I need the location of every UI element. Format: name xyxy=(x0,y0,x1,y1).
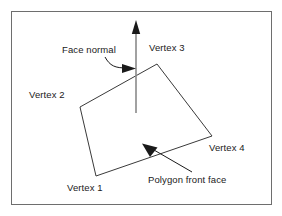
label-vertex-3: Vertex 3 xyxy=(149,42,185,53)
figure-border xyxy=(12,12,272,205)
diagram-canvas xyxy=(0,0,282,216)
label-vertex-1: Vertex 1 xyxy=(67,182,103,193)
label-polygon-front-face: Polygon front face xyxy=(148,174,226,185)
figure-container: Face normal Vertex 3 Vertex 2 Vertex 4 V… xyxy=(0,0,282,216)
label-vertex-4: Vertex 4 xyxy=(209,142,245,153)
label-face-normal: Face normal xyxy=(62,44,116,55)
label-vertex-2: Vertex 2 xyxy=(29,89,65,100)
